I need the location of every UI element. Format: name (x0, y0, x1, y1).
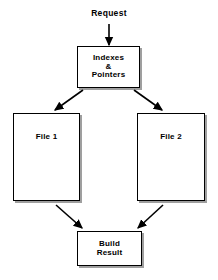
node-file-2-label: File 2 (160, 133, 182, 142)
node-build-result-label: Build Result (97, 240, 123, 258)
edge-indexes-to-file1 (55, 90, 83, 110)
node-request-label: Request (0, 8, 218, 18)
node-file-2[interactable]: File 2 (137, 113, 205, 201)
node-indexes-pointers-label: Indexes & Pointers (92, 54, 126, 81)
edge-file2-to-build (138, 205, 163, 228)
edge-indexes-to-file2 (134, 90, 162, 110)
node-indexes-pointers[interactable]: Indexes & Pointers (77, 46, 140, 88)
edge-file1-to-build (56, 205, 82, 228)
flowchart-diagram: Request Indexes & Pointers File 1 File 2… (0, 0, 218, 280)
node-file-1[interactable]: File 1 (13, 113, 80, 201)
node-build-result[interactable]: Build Result (77, 231, 142, 266)
node-file-1-label: File 1 (36, 133, 58, 142)
